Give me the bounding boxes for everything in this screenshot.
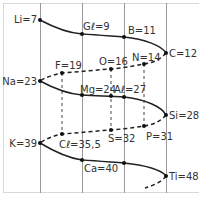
label-s: S=32 [108, 133, 135, 144]
label-n: N=14 [132, 52, 161, 63]
label-si: Si=28 [169, 110, 199, 121]
label-li: Li=7 [14, 14, 37, 25]
label-ca: Ca=40 [84, 163, 118, 174]
label-cl: Cℓ=35,5 [59, 139, 101, 150]
label-na: Na=23 [2, 76, 37, 87]
label-f: F=19 [55, 60, 82, 71]
dashed-vertical-lines [62, 64, 144, 134]
label-gl: Gℓ=9 [83, 21, 110, 32]
telluric-screw-diagram: Li=7 Gℓ=9 B=11 C=12 N=14 O=16 F=19 Na=23… [0, 0, 199, 203]
label-k: K=39 [9, 138, 37, 149]
label-c: C=12 [169, 48, 197, 59]
helix-front-segments [40, 20, 166, 176]
element-labels: Li=7 Gℓ=9 B=11 C=12 N=14 O=16 F=19 Na=23… [2, 14, 199, 182]
label-al: Aℓ=27 [114, 84, 146, 95]
label-b: B=11 [128, 25, 156, 36]
label-p: P=31 [146, 131, 173, 142]
label-ti: Ti=48 [168, 171, 199, 182]
label-o: O=16 [99, 56, 128, 67]
label-mg: Mg=24 [80, 84, 116, 95]
